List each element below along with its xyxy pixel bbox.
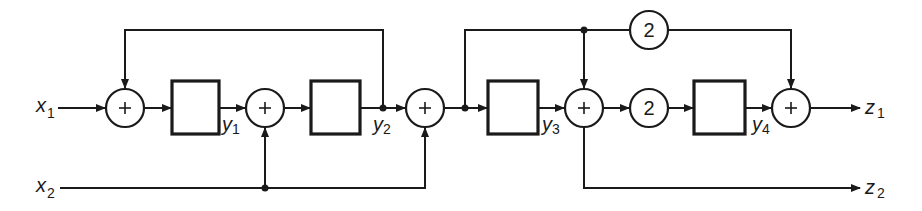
adder-2 — [246, 89, 284, 127]
label-x2: x 2 — [35, 174, 55, 201]
wire-z2 — [584, 127, 860, 188]
adder-5 — [772, 89, 810, 127]
junction-x2 — [262, 185, 269, 192]
delay-block-4 — [694, 81, 745, 134]
junction-adder3-out — [462, 105, 469, 112]
svg-text:1: 1 — [47, 105, 55, 121]
label-y4: y 4 — [750, 113, 770, 137]
svg-text:z: z — [864, 96, 875, 118]
gain-top: 2 — [630, 11, 668, 49]
label-x1: x 1 — [35, 94, 55, 121]
delay-block-1 — [172, 81, 219, 134]
delay-block-3 — [488, 81, 538, 134]
label-y1: y 1 — [220, 113, 240, 137]
wire-gain-adder5 — [669, 30, 791, 88]
label-z1: z 1 — [864, 96, 885, 121]
delay-block-2 — [311, 81, 360, 134]
svg-text:2: 2 — [643, 97, 654, 119]
junction-y2 — [380, 105, 387, 112]
svg-text:2: 2 — [383, 121, 391, 137]
svg-text:x: x — [35, 94, 47, 116]
wire-x2 — [60, 128, 425, 188]
adder-3 — [406, 89, 444, 127]
block-diagram: 2 2 x 1 x 2 y 1 y 2 y 3 y 4 z 1 z 2 — [0, 0, 922, 211]
svg-text:z: z — [864, 176, 875, 198]
svg-text:2: 2 — [877, 185, 885, 201]
gain-middle: 2 — [630, 89, 668, 127]
svg-text:2: 2 — [47, 185, 55, 201]
svg-text:1: 1 — [232, 121, 240, 137]
svg-text:2: 2 — [643, 19, 654, 41]
adder-4 — [565, 89, 603, 127]
label-y2: y 2 — [371, 113, 391, 137]
adder-1 — [106, 89, 144, 127]
svg-text:3: 3 — [552, 121, 560, 137]
label-z2: z 2 — [864, 176, 885, 201]
junction-top — [581, 27, 588, 34]
svg-text:4: 4 — [762, 121, 770, 137]
svg-text:1: 1 — [877, 105, 885, 121]
svg-text:x: x — [35, 174, 47, 196]
label-y3: y 3 — [540, 113, 560, 137]
